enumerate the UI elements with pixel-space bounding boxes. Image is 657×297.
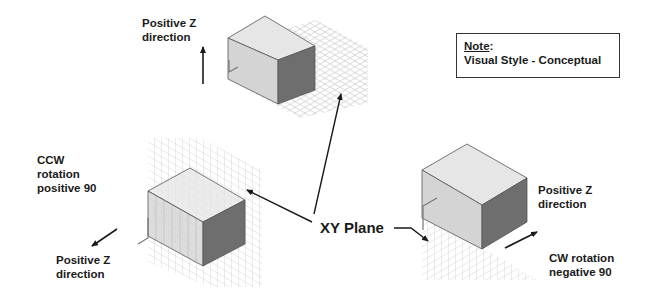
label-line: rotation [37,167,96,181]
bottom-right-view [422,144,538,280]
positive-z-arrow-down-left [92,229,117,246]
label-line: Positive Z [56,253,110,267]
xy-plane-label: XY Plane [320,219,384,237]
label-line: CW rotation [549,251,614,265]
note-text: Visual Style - Conceptual [464,53,619,67]
label-line: direction [142,30,196,44]
label-line: CCW [37,153,96,167]
note-box: Note: Visual Style - Conceptual [456,33,620,78]
positive-z-arrow-up-right [505,232,537,248]
bottom-right-positive-z-label: Positive Z direction [538,183,592,211]
bottom-left-view [92,138,262,287]
ccw-rotation-label: CCW rotation positive 90 [37,153,96,195]
label-line: XY Plane [320,219,384,237]
label-line: negative 90 [549,265,614,279]
note-title-line: Note: [464,39,619,53]
cw-rotation-label: CW rotation negative 90 [549,251,614,279]
label-line: positive 90 [37,181,96,195]
ucs-icon [138,218,148,244]
top-positive-z-label: Positive Z direction [142,16,196,44]
note-colon: : [490,40,494,52]
label-line: direction [56,267,110,281]
label-line: direction [538,197,592,211]
bottom-left-positive-z-label: Positive Z direction [56,253,110,281]
label-line: Positive Z [142,16,196,30]
top-view [203,16,368,118]
note-title: Note [464,40,490,52]
label-line: Positive Z [538,183,592,197]
